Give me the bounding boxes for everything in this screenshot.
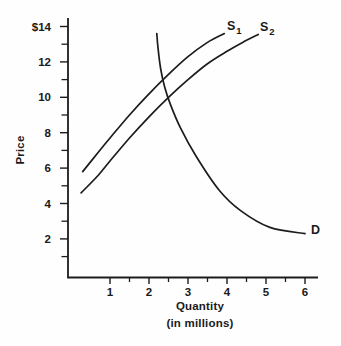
y-tick-label: 4 [45, 198, 52, 210]
curve-S2 [81, 35, 258, 193]
curve-S1 [83, 34, 225, 172]
supply-demand-figure: $1412108642123456 Price Quantity (in mil… [0, 0, 341, 346]
x-axis-title: Quantity [140, 300, 260, 312]
x-tick-label: 4 [224, 286, 231, 298]
y-tick-label: 6 [45, 162, 51, 174]
y-tick-label: 12 [38, 56, 51, 68]
x-tick-label: 6 [302, 286, 308, 298]
curve-label-s2: S2 [260, 21, 275, 36]
x-tick-label: 1 [107, 286, 114, 298]
s1-label-subscript: 1 [236, 25, 241, 36]
x-tick-label: 3 [185, 286, 191, 298]
y-axis-title: Price [4, 134, 36, 166]
x-tick-label: 2 [146, 286, 152, 298]
plot-area: $1412108642123456 [0, 0, 341, 346]
d-label-letter: D [311, 223, 320, 237]
s2-label-letter: S [260, 20, 268, 34]
y-tick-label: 2 [45, 233, 51, 245]
x-axis-subtitle: (in millions) [140, 317, 260, 329]
y-tick-label: 8 [45, 127, 52, 139]
curve-label-s1: S1 [227, 20, 242, 35]
y-tick-label: 10 [38, 91, 51, 103]
axes [68, 18, 318, 278]
y-tick-label: $14 [32, 21, 52, 33]
s2-label-subscript: 2 [269, 26, 274, 37]
curve-label-d: D [311, 224, 320, 237]
x-tick-label: 5 [263, 286, 270, 298]
s1-label-letter: S [227, 19, 235, 33]
